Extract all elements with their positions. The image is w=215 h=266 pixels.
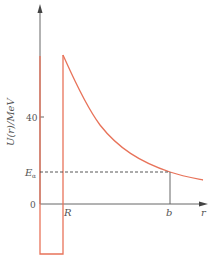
marker-label-b: b [166, 207, 172, 218]
x-axis-label: r [201, 207, 207, 218]
potential-diagram: U(r)/MeV 40 0 E α R b r [0, 0, 215, 266]
y-axis-label: U(r)/MeV [5, 96, 16, 146]
energy-level-subscript: α [32, 172, 36, 179]
x-axis-arrow-icon [199, 202, 208, 207]
y-axis-arrow-icon [38, 4, 43, 13]
y-tick-label-40: 40 [26, 113, 38, 123]
coulomb-barrier-curve [63, 55, 203, 180]
marker-label-R: R [63, 207, 72, 218]
y-tick-label-0: 0 [30, 200, 36, 210]
potential-well [40, 55, 63, 254]
